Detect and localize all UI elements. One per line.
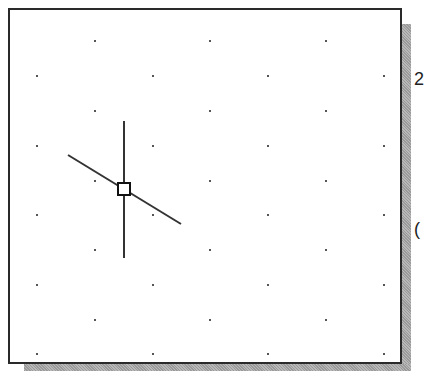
grid-dot	[36, 214, 38, 216]
edge-text-fragment: 2	[414, 70, 424, 88]
grid-dot	[36, 145, 38, 147]
grid-dot	[383, 214, 385, 216]
grid-dots	[36, 40, 385, 355]
grid-dot	[267, 75, 269, 77]
grid-dot	[267, 145, 269, 147]
grid-dot	[36, 75, 38, 77]
crosshair-cursor-icon	[68, 121, 181, 258]
pickbox-icon	[118, 183, 130, 195]
grid-dot	[94, 319, 96, 321]
grid-dot	[36, 353, 38, 355]
grid-dot	[209, 249, 211, 251]
grid-dot	[325, 180, 327, 182]
grid-dot	[152, 214, 154, 216]
grid-dot	[94, 110, 96, 112]
grid-dot	[94, 40, 96, 42]
grid-dot	[267, 284, 269, 286]
grid-dot	[36, 284, 38, 286]
grid-dot	[209, 180, 211, 182]
grid-dot	[94, 180, 96, 182]
grid-dot	[383, 284, 385, 286]
grid-dot	[209, 319, 211, 321]
grid-dot	[325, 249, 327, 251]
grid-dot	[383, 75, 385, 77]
grid-dot	[267, 353, 269, 355]
grid-dot	[383, 145, 385, 147]
edge-text-fragment: (	[414, 220, 420, 238]
grid-dot	[94, 249, 96, 251]
grid-dot	[152, 353, 154, 355]
grid-dot	[209, 40, 211, 42]
grid-dot	[152, 284, 154, 286]
grid-dot	[325, 40, 327, 42]
grid-dot	[383, 353, 385, 355]
grid-dot	[152, 75, 154, 77]
grid-dot	[325, 319, 327, 321]
grid-dot	[325, 110, 327, 112]
grid-dot	[267, 214, 269, 216]
canvas-overlay	[0, 0, 424, 372]
grid-dot	[209, 110, 211, 112]
grid-dot	[152, 145, 154, 147]
